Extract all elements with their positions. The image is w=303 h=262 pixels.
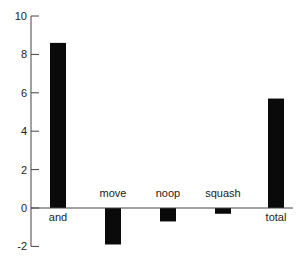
category-label-noop: noop	[156, 187, 180, 199]
bar-chart: -20246810 andmovenoopsquashtotal	[0, 0, 303, 262]
y-tick-label: 8	[21, 48, 27, 60]
bars	[50, 43, 284, 245]
y-axis: -20246810	[15, 10, 39, 252]
y-tick-label: 10	[15, 10, 27, 22]
y-tick-label: 6	[21, 87, 27, 99]
bar-move	[105, 208, 121, 244]
bar-total	[268, 99, 284, 208]
category-label-move: move	[100, 187, 127, 199]
y-tick-label: -2	[17, 240, 27, 252]
y-tick-label: 2	[21, 164, 27, 176]
category-label-and: and	[49, 211, 67, 223]
bar-and	[50, 43, 66, 208]
bar-noop	[160, 208, 176, 221]
y-tick-label: 0	[21, 202, 27, 214]
bar-squash	[215, 208, 231, 214]
category-label-squash: squash	[205, 187, 240, 199]
category-label-total: total	[266, 211, 287, 223]
y-tick-label: 4	[21, 125, 27, 137]
